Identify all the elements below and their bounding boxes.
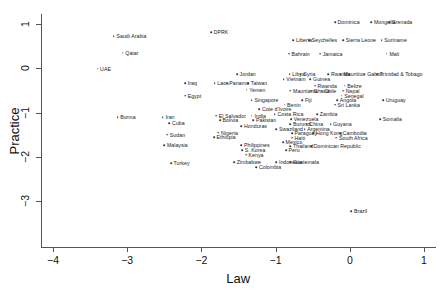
- data-point: [164, 145, 166, 147]
- data-point: [388, 21, 390, 23]
- data-point-label: South Africa: [339, 135, 368, 141]
- data-point: [371, 21, 373, 23]
- data-point-label: Qatar: [125, 50, 138, 56]
- x-axis-tick-label: −1: [270, 254, 282, 266]
- data-point: [336, 137, 338, 139]
- data-point-label: Bahrain: [292, 51, 310, 57]
- x-axis-tick: [424, 247, 425, 252]
- y-axis-title: Practice: [7, 107, 22, 154]
- data-point: [241, 126, 243, 128]
- data-point: [386, 53, 388, 55]
- y-axis-tick: [36, 24, 41, 25]
- x-axis-tick-label: 0: [347, 254, 353, 266]
- data-point: [290, 161, 292, 163]
- data-point: [300, 73, 302, 75]
- data-point: [214, 83, 216, 85]
- data-point-label: DPRK: [214, 29, 229, 35]
- data-point: [306, 123, 308, 125]
- data-point: [218, 132, 220, 134]
- data-point-label: Yemen: [249, 87, 265, 93]
- data-point: [251, 115, 253, 117]
- data-point-label: Jordan: [240, 71, 256, 77]
- data-point: [210, 32, 212, 34]
- data-point: [379, 118, 381, 120]
- data-point: [233, 161, 235, 163]
- data-point: [291, 133, 293, 135]
- data-point: [184, 95, 186, 97]
- data-point-label: Fiji: [305, 97, 312, 103]
- data-point-label: Trinidad & Tobago: [380, 71, 423, 77]
- data-point: [285, 149, 287, 151]
- y-axis-tick-label: −3: [19, 193, 31, 209]
- data-point-label: Uruguay: [386, 97, 406, 103]
- data-point: [382, 99, 384, 101]
- data-point-label: Turkey: [174, 160, 190, 166]
- data-point: [215, 115, 217, 117]
- data-point: [166, 134, 168, 136]
- data-point-label: Guinea: [313, 76, 330, 82]
- data-point: [97, 68, 99, 70]
- x-axis-tick: [201, 247, 202, 252]
- x-axis-tick-label: 1: [421, 254, 427, 266]
- data-point: [342, 90, 344, 92]
- y-axis-tick-label: 0: [19, 60, 31, 76]
- data-point: [290, 123, 292, 125]
- data-point: [321, 90, 323, 92]
- data-point: [364, 73, 366, 75]
- data-point-label: Grenada: [392, 19, 413, 25]
- data-point: [310, 90, 312, 92]
- data-point: [245, 154, 247, 156]
- y-axis-tick: [36, 113, 41, 114]
- data-point: [290, 118, 292, 120]
- y-axis-tick-label: 1: [19, 16, 31, 32]
- data-point-label: Sierra Leone: [346, 37, 376, 43]
- x-axis-tick-label: −2: [195, 254, 207, 266]
- scatter-plot: −4−3−2−10110−1−2−3LawPracticeSaudi Arabi…: [0, 0, 444, 297]
- data-point: [274, 113, 276, 115]
- x-axis-tick: [350, 247, 351, 252]
- data-point-label: Kenya: [249, 152, 264, 158]
- data-point: [342, 39, 344, 41]
- data-point-label: Colombia: [259, 164, 281, 170]
- data-point: [319, 53, 321, 55]
- data-point: [376, 73, 378, 75]
- data-point: [241, 145, 243, 147]
- x-axis-tick: [276, 247, 277, 252]
- x-axis-tick: [127, 247, 128, 252]
- data-point-label: Malaysia: [167, 142, 188, 148]
- y-axis-tick: [36, 68, 41, 69]
- data-point-label: Iraq: [188, 80, 197, 86]
- data-point-label: Ethiopia: [217, 134, 236, 140]
- data-point-label: Guatemala: [293, 159, 319, 165]
- data-point-label: Guyana: [333, 121, 351, 127]
- data-point: [219, 119, 221, 121]
- x-axis-title: Law: [226, 271, 250, 286]
- data-point: [310, 79, 312, 81]
- data-point: [344, 85, 346, 87]
- data-point-label: Dominica: [338, 19, 360, 25]
- data-point: [381, 39, 383, 41]
- data-point-label: Jamaica: [323, 51, 343, 57]
- data-point: [276, 161, 278, 163]
- data-point: [246, 89, 248, 91]
- data-point: [170, 162, 172, 164]
- data-point-label: Taiwan: [251, 80, 267, 86]
- data-point: [251, 99, 253, 101]
- data-point: [117, 117, 119, 119]
- data-point: [184, 83, 186, 85]
- data-point-label: Bolivia: [223, 117, 239, 123]
- data-point-label: Pakistan: [256, 117, 276, 123]
- data-point-label: Vietnam: [286, 76, 305, 82]
- data-point: [314, 85, 316, 87]
- data-point-label: Zimbabwe: [237, 159, 261, 165]
- data-point: [253, 119, 255, 121]
- data-point: [308, 39, 310, 41]
- data-point-label: Singapore: [254, 97, 278, 103]
- data-point: [293, 39, 295, 41]
- data-point: [316, 113, 318, 115]
- data-point: [236, 73, 238, 75]
- data-point: [302, 99, 304, 101]
- data-point: [334, 104, 336, 106]
- data-point: [350, 210, 352, 212]
- data-point: [169, 122, 171, 124]
